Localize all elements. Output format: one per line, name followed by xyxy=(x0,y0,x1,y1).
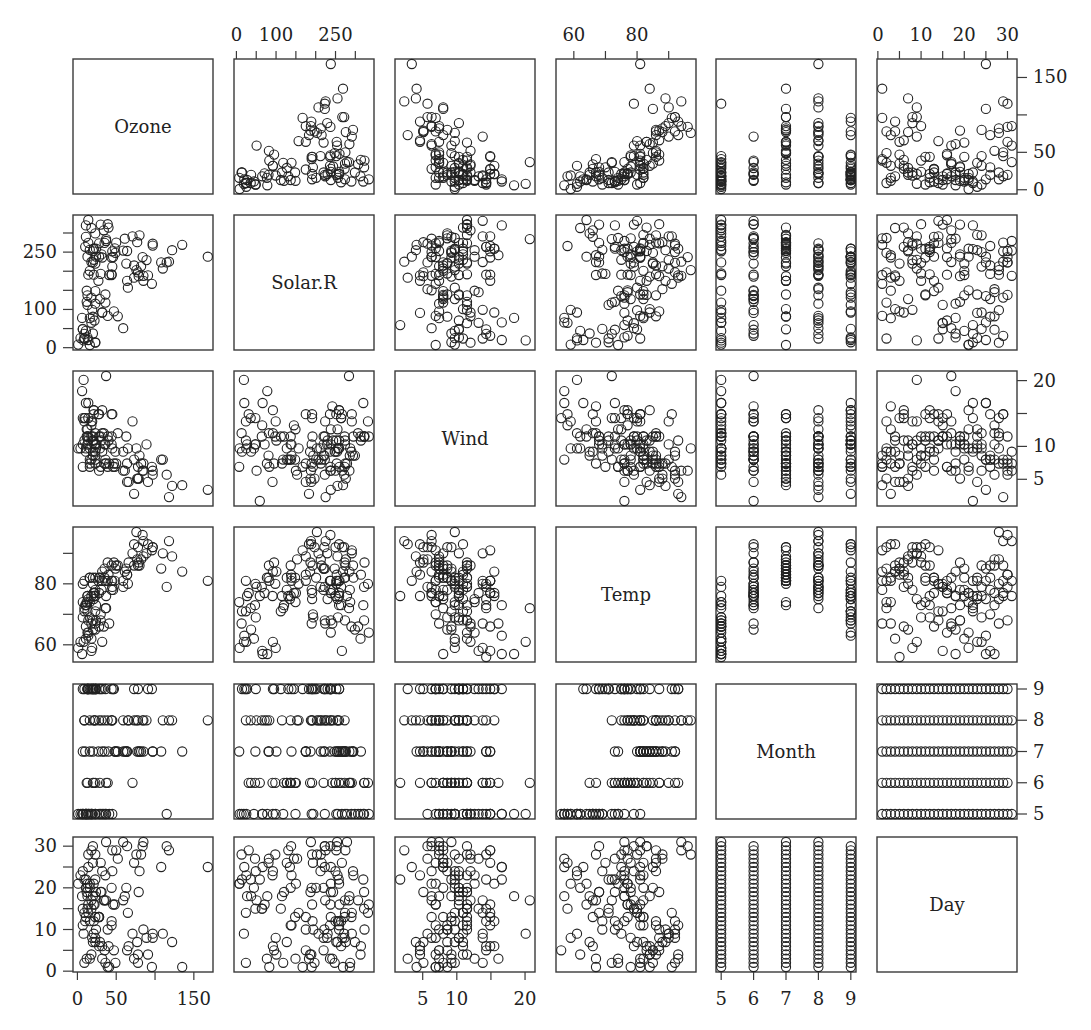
points xyxy=(396,684,535,818)
data-point xyxy=(1003,530,1012,539)
panel-wind-vs-ozone xyxy=(73,371,213,506)
data-point xyxy=(912,336,921,345)
data-point xyxy=(999,238,1008,247)
data-point xyxy=(431,340,440,349)
data-point xyxy=(986,269,995,278)
data-point xyxy=(148,747,157,756)
data-point xyxy=(912,103,921,112)
data-point xyxy=(960,455,969,464)
data-point xyxy=(576,950,585,959)
data-point xyxy=(454,549,463,558)
data-point xyxy=(591,402,600,411)
data-point xyxy=(119,324,128,333)
data-point xyxy=(294,444,303,453)
top-axis-day: 0102030 xyxy=(872,24,1019,59)
left-axis-day: 0102030 xyxy=(34,835,73,981)
tick-label: 8 xyxy=(813,988,824,1009)
data-point xyxy=(241,908,250,917)
data-point xyxy=(396,875,405,884)
data-point xyxy=(560,892,569,901)
data-point xyxy=(306,837,315,846)
data-point xyxy=(497,601,506,610)
variable-label: Day xyxy=(929,894,965,915)
data-point xyxy=(947,417,956,426)
data-point xyxy=(342,837,351,846)
panel-solar-r-vs-month xyxy=(716,215,856,350)
data-point xyxy=(143,477,152,486)
tick-label: 80 xyxy=(626,24,649,45)
data-point xyxy=(579,398,588,407)
data-point xyxy=(921,290,930,299)
data-point xyxy=(620,809,629,818)
data-point xyxy=(683,842,692,851)
data-point xyxy=(439,649,448,658)
data-point xyxy=(846,288,855,297)
data-point xyxy=(168,481,177,490)
data-point xyxy=(595,842,604,851)
points xyxy=(717,837,856,971)
data-point xyxy=(951,649,960,658)
data-point xyxy=(947,604,956,613)
points xyxy=(235,371,374,505)
data-point xyxy=(81,634,90,643)
data-point xyxy=(80,576,89,585)
data-point xyxy=(908,305,917,314)
data-point xyxy=(677,716,686,725)
data-point xyxy=(250,854,259,863)
variable-label: Solar.R xyxy=(271,272,337,293)
panel-wind-vs-day xyxy=(877,371,1017,506)
data-point xyxy=(113,854,122,863)
data-point xyxy=(312,527,321,536)
data-point xyxy=(326,530,335,539)
data-point xyxy=(994,338,1003,347)
data-point xyxy=(582,252,591,261)
panel-ozone-vs-month xyxy=(716,59,856,194)
data-point xyxy=(598,324,607,333)
data-point xyxy=(133,937,142,946)
panel-day-vs-ozone xyxy=(73,837,213,972)
data-point xyxy=(781,340,790,349)
data-point xyxy=(411,94,420,103)
data-point xyxy=(435,619,444,628)
data-point xyxy=(240,398,249,407)
points xyxy=(396,837,535,971)
points xyxy=(878,215,1017,349)
data-point xyxy=(345,585,354,594)
data-point xyxy=(497,631,506,640)
data-point xyxy=(178,962,187,971)
data-point xyxy=(973,290,982,299)
data-point xyxy=(252,141,261,150)
data-point xyxy=(497,862,506,871)
data-point xyxy=(341,148,350,157)
data-point xyxy=(78,387,87,396)
points xyxy=(74,371,213,501)
panel-frame xyxy=(716,215,856,350)
data-point xyxy=(1007,271,1016,280)
data-point xyxy=(158,549,167,558)
data-point xyxy=(882,417,891,426)
data-point xyxy=(407,59,416,68)
data-point xyxy=(667,908,676,917)
data-point xyxy=(917,613,926,622)
diagonal-panel-solar-r: Solar.R xyxy=(234,215,374,350)
data-point xyxy=(258,398,267,407)
data-point xyxy=(781,290,790,299)
data-point xyxy=(486,152,495,161)
data-point xyxy=(964,628,973,637)
data-point xyxy=(994,527,1003,536)
data-point xyxy=(407,576,416,585)
data-point xyxy=(268,406,277,415)
data-point xyxy=(598,867,607,876)
data-point xyxy=(415,117,424,126)
data-point xyxy=(251,747,260,756)
data-point xyxy=(934,334,943,343)
data-point xyxy=(321,417,330,426)
data-point xyxy=(878,481,887,490)
points xyxy=(396,527,535,661)
data-point xyxy=(999,493,1008,502)
data-point xyxy=(239,375,248,384)
panel-temp-vs-wind xyxy=(395,527,535,662)
data-point xyxy=(415,308,424,317)
data-point xyxy=(338,962,347,971)
data-point xyxy=(478,216,487,225)
